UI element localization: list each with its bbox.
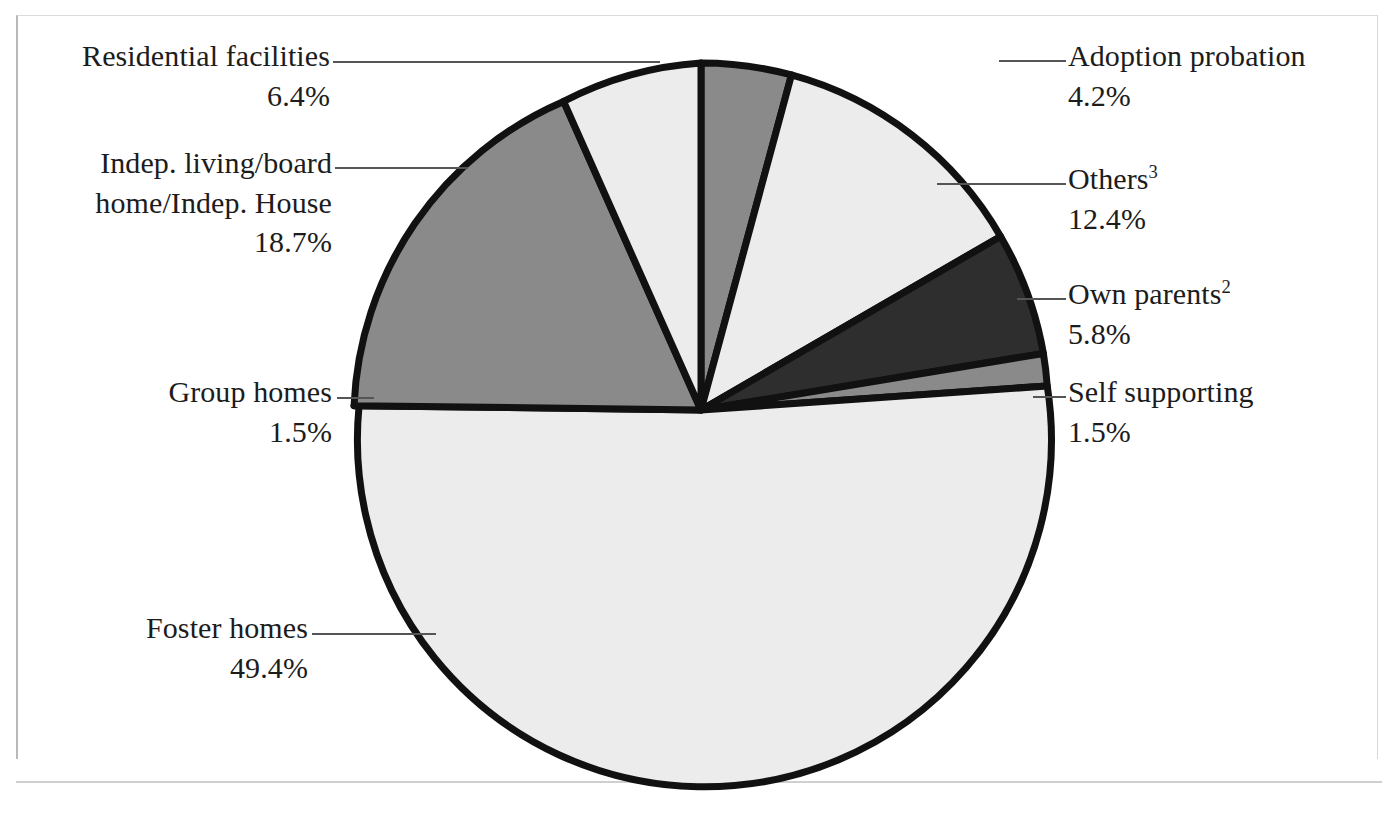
label-others-name: Others3 [1068,162,1158,195]
label-group-homes-value: 1.5% [60,412,332,452]
label-own-parents: Own parents2 5.8% [1068,274,1231,353]
label-own-parents-footnote: 2 [1222,276,1231,297]
pie-slices [354,63,1051,787]
label-foster-homes-name: Foster homes [146,611,308,644]
label-group-homes-name: Group homes [168,375,332,408]
pie-slice-foster-homes[interactable] [357,373,1051,787]
label-adoption-probation-name: Adoption probation [1068,39,1306,72]
label-adoption-probation: Adoption probation 4.2% [1068,36,1306,115]
label-residential-facilities-name: Residential facilities [82,39,330,72]
label-foster-homes-value: 49.4% [40,648,308,688]
label-own-parents-text: Own parents [1068,277,1222,310]
label-foster-homes: Foster homes 49.4% [40,608,308,687]
label-self-supporting-value: 1.5% [1068,412,1254,452]
label-others-value: 12.4% [1068,199,1158,239]
pie-chart-figure: Residential facilities 6.4% Indep. livin… [0,0,1396,819]
label-self-supporting-name: Self supporting [1068,375,1254,408]
label-others: Others3 12.4% [1068,159,1158,238]
label-others-footnote: 3 [1149,161,1158,182]
label-indep-living-value: 18.7% [40,222,332,262]
label-indep-living-line2: home/Indep. House [40,183,332,223]
label-others-text: Others [1068,162,1149,195]
label-group-homes: Group homes 1.5% [60,372,332,451]
label-indep-living: Indep. living/board home/Indep. House 18… [40,143,332,262]
label-indep-living-line1: Indep. living/board [100,146,332,179]
label-residential-facilities-value: 6.4% [50,76,330,116]
label-self-supporting: Self supporting 1.5% [1068,372,1254,451]
label-own-parents-name: Own parents2 [1068,277,1231,310]
label-own-parents-value: 5.8% [1068,314,1231,354]
label-adoption-probation-value: 4.2% [1068,76,1306,116]
label-residential-facilities: Residential facilities 6.4% [50,36,330,115]
